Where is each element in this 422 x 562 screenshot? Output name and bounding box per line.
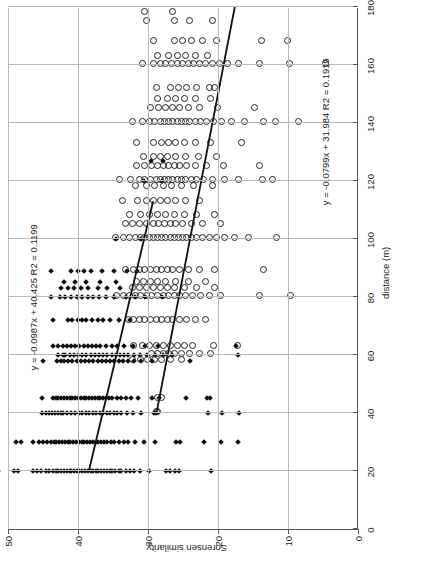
gridline-horizontal: [148, 8, 149, 529]
gridline-vertical: [8, 470, 357, 471]
trend-circles: [156, 7, 234, 413]
gridline-horizontal: [218, 8, 219, 529]
x-axis-tick: [353, 238, 358, 239]
gridline-horizontal: [78, 8, 79, 529]
x-axis-tick-label: 60: [365, 351, 376, 362]
gridline-vertical: [8, 64, 357, 65]
y-axis-tick: [8, 529, 9, 534]
trend-diamonds: [89, 201, 153, 471]
x-axis-tick: [353, 470, 358, 471]
regression-equation-series-2: y = -0.0799x + 31.984 R2 = 0.1919: [320, 58, 331, 205]
y-axis-tick-label: 40: [73, 536, 84, 556]
y-axis-tick-label: 50: [3, 536, 14, 556]
plot-area: [8, 8, 358, 530]
gridline-horizontal: [288, 8, 289, 529]
gridline-vertical: [8, 354, 357, 355]
y-axis-tick-label: 0: [353, 536, 364, 556]
x-axis-tick-label: 0: [365, 527, 376, 532]
gridline-vertical: [8, 296, 357, 297]
x-axis-tick-label: 80: [365, 293, 376, 304]
y-axis-tick: [148, 529, 149, 534]
x-axis-tick: [353, 412, 358, 413]
x-axis-tick-label: 20: [365, 467, 376, 478]
x-axis-tick: [353, 354, 358, 355]
gridline-vertical: [8, 122, 357, 123]
y-axis-tick: [78, 529, 79, 534]
gridline-vertical: [8, 180, 357, 181]
regression-equation-series-1: y = -0.0987x + 40.425 R2 = 0.1199: [28, 224, 39, 370]
y-axis-tick: [218, 529, 219, 534]
x-axis-tick: [353, 6, 358, 7]
x-axis-label: distance (m): [380, 247, 391, 299]
x-axis-tick: [353, 122, 358, 123]
gridline-vertical: [8, 412, 357, 413]
x-axis-tick: [353, 296, 358, 297]
trendline-layer: [8, 7, 358, 529]
y-axis-tick-label: 10: [283, 536, 294, 556]
x-axis-tick: [353, 64, 358, 65]
y-axis-tick: [358, 529, 359, 534]
y-axis-label: Sorensen similarity: [147, 543, 227, 554]
rotated-figure-wrapper: 020406080100120140160180 01020304050 dis…: [0, 0, 422, 562]
scatter-chart-figure: 020406080100120140160180 01020304050 dis…: [0, 0, 422, 562]
x-axis-tick-label: 40: [365, 409, 376, 420]
gridline-horizontal: [8, 8, 9, 529]
x-axis-tick-label: 120: [365, 174, 376, 190]
gridline-vertical: [8, 6, 357, 7]
x-axis-tick-label: 100: [365, 232, 376, 248]
x-axis-tick-label: 180: [365, 0, 376, 16]
x-axis-tick-label: 160: [365, 58, 376, 74]
x-axis-tick-label: 140: [365, 116, 376, 132]
x-axis-tick: [353, 180, 358, 181]
gridline-vertical: [8, 238, 357, 239]
y-axis-tick: [288, 529, 289, 534]
